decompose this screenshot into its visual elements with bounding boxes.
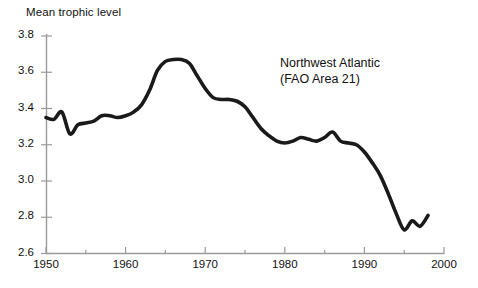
- annotation-line-2: (FAO Area 21): [280, 71, 380, 87]
- chart-container: Mean trophic level 3.83.63.43.23.02.82.6…: [0, 0, 478, 288]
- x-axis-tick-label: 1970: [183, 258, 227, 270]
- axis-lines: [46, 34, 444, 254]
- y-axis-tick-label: 3.6: [6, 64, 34, 76]
- y-axis-tick-label: 2.8: [6, 209, 34, 221]
- y-axis-tick-label: 2.6: [6, 246, 34, 258]
- x-axis-tick-label: 2000: [422, 258, 466, 270]
- series-annotation: Northwest Atlantic (FAO Area 21): [280, 55, 380, 87]
- y-axis-tick-label: 3.8: [6, 28, 34, 40]
- x-axis-tick-label: 1960: [104, 258, 148, 270]
- y-axis-tick-label: 3.0: [6, 173, 34, 185]
- plot-area: [0, 0, 478, 288]
- y-axis-tick-label: 3.2: [6, 137, 34, 149]
- x-axis-tick-label: 1980: [263, 258, 307, 270]
- y-axis-tick-label: 3.4: [6, 101, 34, 113]
- x-axis-tick-label: 1990: [342, 258, 386, 270]
- x-axis-tick-label: 1950: [24, 258, 68, 270]
- annotation-line-1: Northwest Atlantic: [280, 55, 380, 71]
